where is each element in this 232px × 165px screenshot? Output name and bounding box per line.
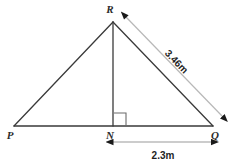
vertex-label-Q: Q [211,129,219,141]
triangle-figure: R P N Q 3.46m 2.3m [0,0,232,165]
dimension-label-hypotenuse: 3.46m [163,48,191,76]
geometry-diagram: R P N Q 3.46m 2.3m [0,0,232,165]
vertex-label-P: P [7,129,14,141]
side-RQ [113,22,213,126]
dimension-label-base: 2.3m [152,150,175,161]
vertex-label-R: R [105,3,113,15]
right-angle-marker [114,113,126,126]
side-PR [14,22,113,126]
vertex-label-N: N [105,129,115,141]
